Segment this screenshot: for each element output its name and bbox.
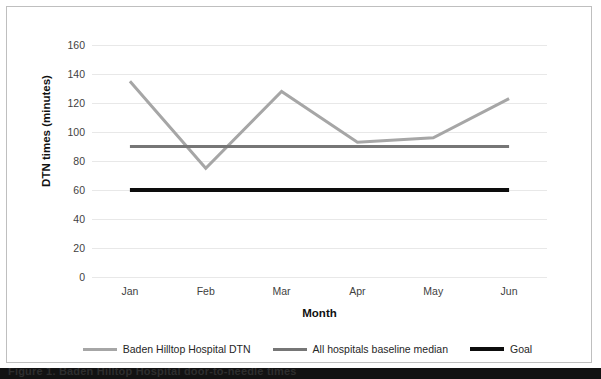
chart-frame: DTN times (minutes) 16014012010080604020…	[6, 6, 592, 363]
y-axis-title: DTN times (minutes)	[40, 46, 52, 216]
legend-label: Goal	[510, 343, 532, 355]
series-lines-group	[92, 45, 547, 277]
caption-band: Figure 1. Baden Hilltop Hospital door-to…	[0, 368, 601, 379]
x-tick-label: Apr	[349, 285, 365, 297]
x-tick-label: Jun	[501, 285, 518, 297]
chart-legend: Baden Hilltop Hospital DTNAll hospitals …	[7, 343, 601, 355]
legend-swatch-icon	[470, 347, 504, 351]
y-tick-label: 80	[73, 155, 85, 167]
legend-swatch-icon	[83, 348, 117, 351]
y-tick-label: 60	[73, 184, 85, 196]
y-tick-label: 20	[73, 242, 85, 254]
y-tick-label: 40	[73, 213, 85, 225]
y-tick-label: 0	[79, 271, 85, 283]
legend-item[interactable]: Baden Hilltop Hospital DTN	[83, 343, 251, 355]
plot-area: 160140120100806040200 JanFebMarAprMayJun	[92, 45, 547, 277]
legend-label: All hospitals baseline median	[313, 343, 448, 355]
legend-item[interactable]: All hospitals baseline median	[273, 343, 448, 355]
figure-container: DTN times (minutes) 16014012010080604020…	[0, 0, 601, 379]
y-tick-label: 140	[67, 68, 85, 80]
x-tick-label: May	[423, 285, 443, 297]
x-tick-label: Mar	[273, 285, 291, 297]
series-line	[130, 81, 509, 168]
x-tick-label: Jan	[121, 285, 138, 297]
legend-label: Baden Hilltop Hospital DTN	[123, 343, 251, 355]
legend-swatch-icon	[273, 348, 307, 351]
y-tick-label: 100	[67, 126, 85, 138]
figure-caption: Figure 1. Baden Hilltop Hospital door-to…	[8, 368, 297, 377]
y-tick-label: 120	[67, 97, 85, 109]
x-tick-label: Feb	[197, 285, 215, 297]
legend-item[interactable]: Goal	[470, 343, 532, 355]
y-tick-label: 160	[67, 39, 85, 51]
x-axis-title: Month	[92, 307, 547, 319]
gridline	[92, 277, 547, 278]
